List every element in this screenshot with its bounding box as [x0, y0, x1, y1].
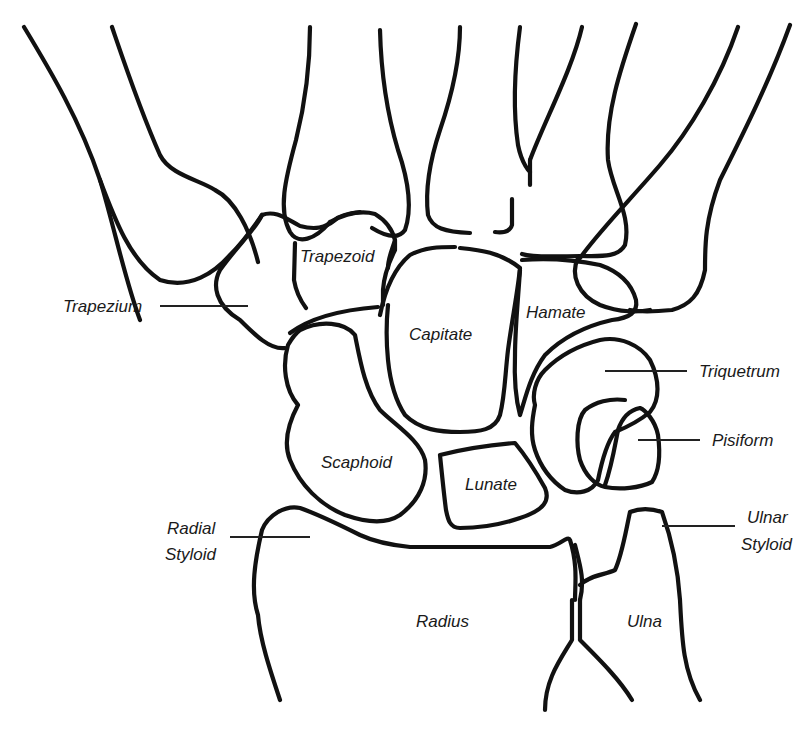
- label-ulna: Ulna: [627, 612, 662, 631]
- metacarpal-5-left: [580, 27, 738, 258]
- triquetrum-outline: [532, 339, 658, 492]
- label-capitate: Capitate: [409, 325, 472, 344]
- radio-ulnar-joint: [545, 600, 632, 710]
- wrist-bones-diagram: Trapezoid Trapezium Capitate Hamate Triq…: [0, 0, 811, 733]
- label-lunate: Lunate: [465, 475, 517, 494]
- metacarpal-1-inner: [112, 27, 258, 262]
- metacarpal-5-right: [630, 25, 790, 312]
- label-radius: Radius: [416, 612, 469, 631]
- label-radial-styloid-2: Styloid: [165, 545, 217, 564]
- label-trapezoid: Trapezoid: [300, 247, 375, 266]
- metacarpal-lines: [24, 24, 790, 320]
- label-ulnar-styloid-2: Styloid: [741, 535, 793, 554]
- label-triquetrum: Triquetrum: [699, 362, 780, 381]
- label-scaphoid: Scaphoid: [321, 453, 392, 472]
- metacarpal-3-right: [515, 27, 530, 172]
- label-ulnar-styloid-1: Ulnar: [747, 508, 789, 527]
- label-trapezium: Trapezium: [63, 297, 142, 316]
- label-pisiform: Pisiform: [712, 431, 773, 450]
- metacarpal-4-base: [495, 199, 512, 232]
- ulna-outline: [575, 509, 700, 700]
- label-hamate: Hamate: [526, 303, 586, 322]
- metacarpal-4-left: [530, 27, 582, 160]
- label-radial-styloid-1: Radial: [167, 519, 216, 538]
- metacarpal-2-left: [284, 27, 330, 239]
- metacarpal-2-right: [372, 30, 409, 236]
- pisiform-outline: [577, 399, 659, 488]
- metacarpal-1-outer: [24, 27, 140, 320]
- hamate-hook: [575, 258, 650, 311]
- metacarpal-3-left: [427, 27, 470, 233]
- scaphoid-outline: [285, 324, 426, 522]
